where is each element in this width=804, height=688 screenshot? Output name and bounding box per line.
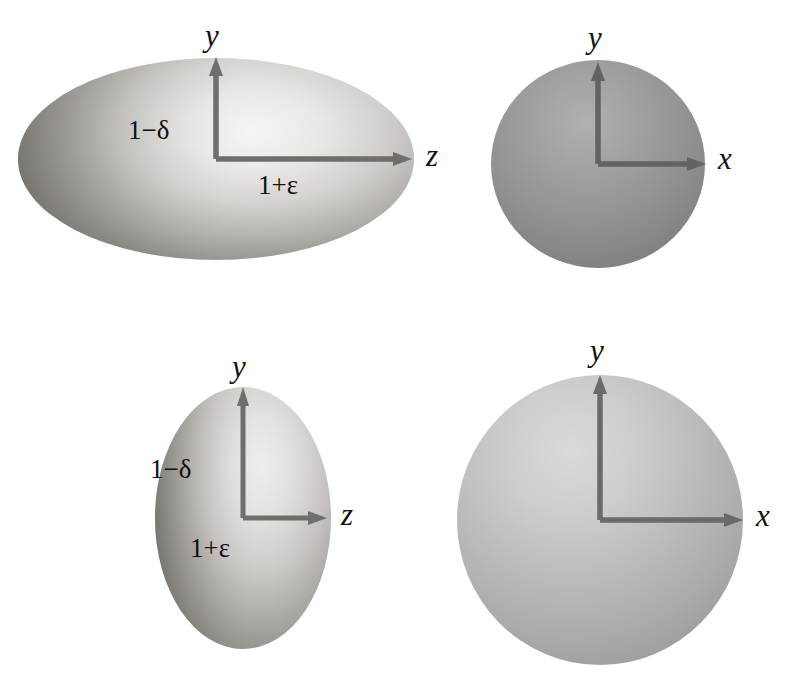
panel-bottom-right: y x xyxy=(460,330,804,688)
x-axis-arrow xyxy=(600,513,743,527)
dimension-label-major-bottom-left: 1+ε xyxy=(190,535,230,562)
y-axis-arrow xyxy=(237,387,249,518)
axes-top-left xyxy=(0,0,460,300)
axes-bottom-right xyxy=(460,330,804,688)
panel-top-right: y x xyxy=(460,0,804,300)
x-axis-arrow xyxy=(598,157,706,171)
y-axis-arrow xyxy=(593,375,607,520)
dimension-label-major-top-left: 1+ε xyxy=(258,172,298,199)
y-axis-arrow xyxy=(209,57,223,159)
axis-label-x-bottom-right: x xyxy=(756,500,770,531)
z-axis-arrow xyxy=(243,511,327,525)
ellipsoid-deformation-figure: y z 1−δ 1+ε xyxy=(0,0,804,688)
axis-label-x-top-right: x xyxy=(718,143,732,174)
panel-bottom-left: y z 1−δ 1+ε xyxy=(0,330,460,688)
dimension-label-minor-top-left: 1−δ xyxy=(128,117,169,144)
axis-label-y-bottom-left: y xyxy=(232,351,246,382)
axis-label-y-bottom-right: y xyxy=(590,335,604,366)
y-axis-arrow xyxy=(591,62,605,164)
axis-label-y-top-left: y xyxy=(205,20,219,51)
dimension-label-minor-bottom-left: 1−δ xyxy=(150,456,191,483)
z-axis-arrow xyxy=(216,152,412,166)
axes-top-right xyxy=(460,0,804,300)
axis-label-y-top-right: y xyxy=(588,22,602,53)
axis-label-z-bottom-left: z xyxy=(341,499,353,530)
panel-top-left: y z 1−δ 1+ε xyxy=(0,0,460,300)
axis-label-z-top-left: z xyxy=(426,140,438,171)
axes-bottom-left xyxy=(0,330,460,688)
